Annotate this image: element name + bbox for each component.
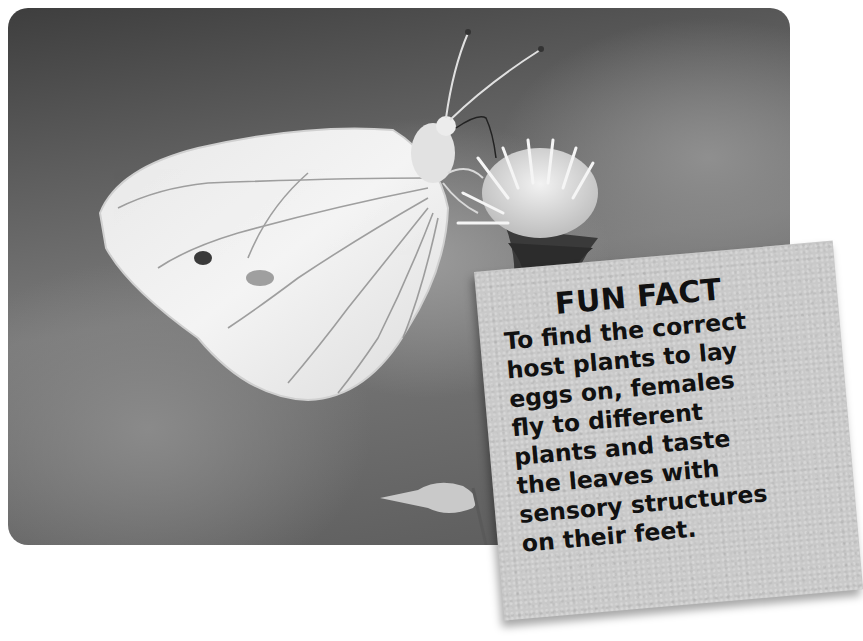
fun-fact-card: FUN FACT To find the correct host plants… xyxy=(474,241,863,621)
fun-fact-body: To find the correct host plants to lay e… xyxy=(503,298,858,558)
